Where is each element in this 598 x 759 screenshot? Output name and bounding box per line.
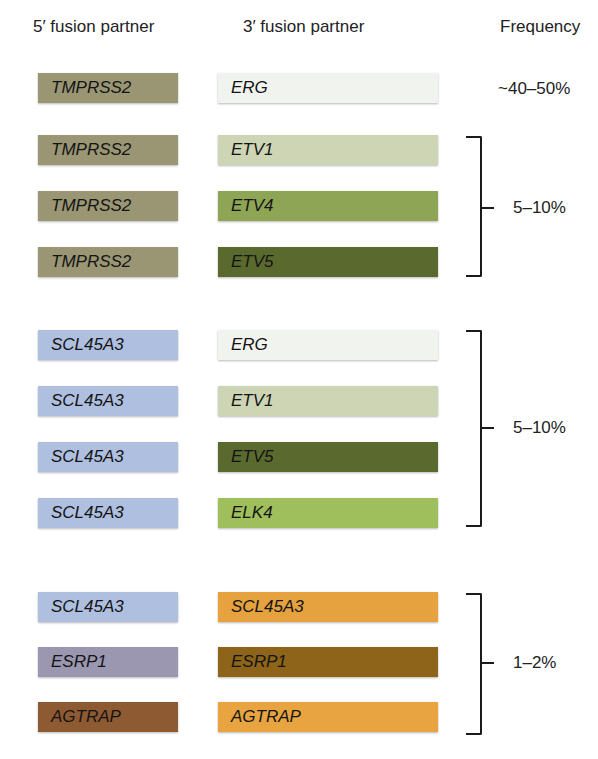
five-prime-box-tmprss2: TMPRSS2 (38, 135, 178, 165)
bracket-tick (481, 427, 494, 429)
frequency-label-tmprss2-erg: ~40–50% (498, 79, 570, 99)
five-prime-box-tmprss2: TMPRSS2 (38, 247, 178, 277)
three-prime-box-etv5: ETV5 (218, 247, 438, 277)
header-five-prime-partner: 5′ fusion partner (33, 17, 154, 37)
five-prime-box-scl45a3: SCL45A3 (38, 386, 178, 416)
five-prime-box-agtrap: AGTRAP (38, 702, 178, 732)
frequency-label-other: 1–2% (513, 653, 556, 673)
three-prime-box-esrp1: ESRP1 (218, 647, 438, 677)
three-prime-box-scl45a3: SCL45A3 (218, 592, 438, 622)
three-prime-box-etv5: ETV5 (218, 442, 438, 472)
header-frequency: Frequency (500, 17, 580, 37)
frequency-label-scl45a3-ets: 5–10% (513, 418, 566, 438)
three-prime-box-erg: ERG (218, 330, 438, 360)
group-bracket-tmprss2-ets (466, 136, 482, 277)
header-three-prime-partner: 3′ fusion partner (243, 17, 364, 37)
group-bracket-other (466, 593, 482, 735)
group-bracket-scl45a3-ets (466, 330, 482, 527)
frequency-label-tmprss2-ets: 5–10% (513, 198, 566, 218)
bracket-tick (481, 207, 494, 209)
three-prime-box-elk4: ELK4 (218, 498, 438, 528)
three-prime-box-etv1: ETV1 (218, 135, 438, 165)
bracket-tick (481, 662, 494, 664)
five-prime-box-tmprss2: TMPRSS2 (38, 73, 178, 103)
five-prime-box-scl45a3: SCL45A3 (38, 330, 178, 360)
three-prime-box-etv1: ETV1 (218, 386, 438, 416)
five-prime-box-scl45a3: SCL45A3 (38, 498, 178, 528)
five-prime-box-scl45a3: SCL45A3 (38, 442, 178, 472)
five-prime-box-tmprss2: TMPRSS2 (38, 191, 178, 221)
five-prime-box-esrp1: ESRP1 (38, 647, 178, 677)
five-prime-box-scl45a3: SCL45A3 (38, 592, 178, 622)
three-prime-box-etv4: ETV4 (218, 191, 438, 221)
three-prime-box-agtrap: AGTRAP (218, 702, 438, 732)
three-prime-box-erg: ERG (218, 73, 438, 103)
